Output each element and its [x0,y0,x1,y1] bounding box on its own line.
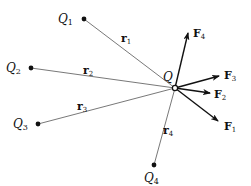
charge-label-q3: Q3 [13,117,28,132]
charge-label-q1: Q1 [58,12,73,27]
distance-label-r3: r3 [77,100,87,114]
distance-lines [31,19,175,165]
distance-line-r3 [38,88,175,124]
force-arrow-f4 [175,33,188,88]
charge-dot-q3 [36,122,41,127]
charge-dot-q4 [152,163,157,168]
center-charge-label: Q [163,70,173,84]
distance-line-r2 [31,68,175,88]
force-label-f2: F2 [214,88,226,102]
distance-label-r4: r4 [163,124,174,138]
force-arrow-f3 [175,76,219,88]
charge-label-q2: Q2 [6,61,21,76]
coulomb-force-diagram: Q1Q2Q3Q4 Q r1r2r3r4 F1F2F3F4 [0,0,251,186]
force-label-f1: F1 [224,120,236,134]
force-label-f3: F3 [224,69,236,83]
force-arrow-f1 [175,88,218,121]
source-charges: Q1Q2Q3Q4 [6,12,159,186]
force-arrows [175,33,219,121]
distance-labels: r1r2r3r4 [77,32,174,138]
center-charge-marker [172,85,177,90]
force-label-f4: F4 [193,27,206,41]
charge-dot-q1 [82,17,87,22]
distance-label-r1: r1 [121,32,131,46]
charge-dot-q2 [29,66,34,71]
distance-label-r2: r2 [83,64,93,78]
charge-label-q4: Q4 [144,171,159,186]
